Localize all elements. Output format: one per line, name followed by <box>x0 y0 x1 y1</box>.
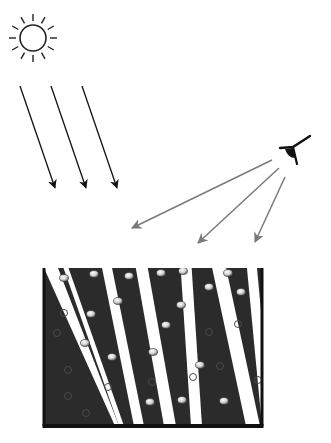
rod-cap <box>60 275 69 282</box>
diagram-canvas <box>0 0 331 443</box>
rod-cap <box>90 271 99 278</box>
rod-cap <box>87 311 96 318</box>
rod-container <box>43 258 273 426</box>
rod-cap <box>157 270 166 277</box>
rod-cap <box>146 399 155 406</box>
incident-light-rays <box>20 86 117 188</box>
diagram-stage <box>0 0 331 443</box>
incident-ray-arrow <box>20 86 55 188</box>
rod-cap <box>177 302 186 309</box>
incident-ray-arrow <box>51 86 86 188</box>
rod-cap <box>224 270 233 277</box>
rod-cap <box>162 322 171 329</box>
sun-icon <box>9 14 57 62</box>
incident-ray-arrow <box>82 86 117 188</box>
rod-cap <box>237 289 246 296</box>
rod-cap <box>220 398 229 405</box>
rod-cap <box>81 340 90 347</box>
rod-cap <box>108 354 117 361</box>
rod-cap <box>196 362 205 369</box>
rod-cap <box>205 284 214 291</box>
rod-cap <box>149 349 158 356</box>
rod-cap <box>179 268 188 275</box>
eye-icon <box>280 136 310 164</box>
view-ray-arrow <box>198 168 279 243</box>
rod-cap <box>125 273 134 280</box>
view-rays <box>132 160 285 243</box>
rod-cap <box>114 298 123 305</box>
rod-cap <box>178 397 187 404</box>
